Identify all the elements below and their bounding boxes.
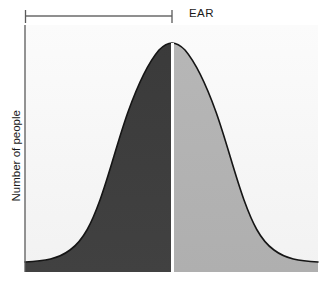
y-axis-label: Number of people (11, 96, 23, 216)
ear-bracket (25, 10, 172, 23)
distribution-plot (0, 0, 324, 281)
ear-annotation-label: EAR (189, 8, 214, 20)
chart-figure: EAR Number of people (0, 0, 324, 281)
